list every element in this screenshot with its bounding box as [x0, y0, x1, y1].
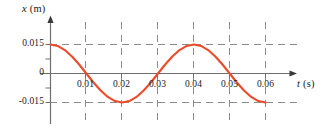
x-axis-unit: (s)	[303, 78, 315, 89]
y-axis-title: x (m)	[22, 3, 45, 14]
y-axis-arrowhead	[47, 16, 53, 24]
x-tick-label-0.06: 0.06	[246, 79, 286, 89]
y-axis-unit: (m)	[30, 3, 46, 14]
x-axis-title: t (s)	[297, 78, 315, 89]
x-tick-label-0.01: 0.01	[66, 79, 106, 89]
plot-canvas	[0, 0, 327, 128]
y-tick-label-0.015: 0.015	[0, 38, 44, 48]
displacement-time-figure: x (m) t (s) 0.015 0 -0.015 0.01 0.02 0.0…	[0, 0, 327, 128]
y-tick-label-0: 0	[0, 67, 44, 77]
x-tick-label-0.03: 0.03	[138, 79, 178, 89]
x-tick-label-0.04: 0.04	[174, 79, 214, 89]
x-tick-label-0.05: 0.05	[210, 79, 250, 89]
y-axis-variable: x	[22, 3, 27, 14]
x-axis-arrowhead	[290, 70, 298, 76]
y-tick-label-minus-0.015: -0.015	[0, 96, 44, 106]
x-tick-label-0.02: 0.02	[102, 79, 142, 89]
x-axis-variable: t	[297, 78, 300, 89]
